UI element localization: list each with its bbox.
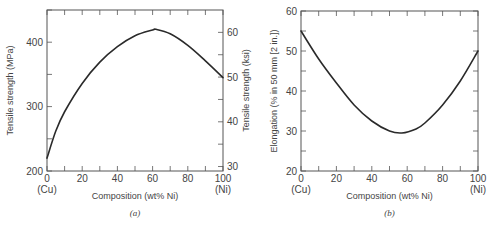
y-tick-label: 50 <box>286 46 298 57</box>
y-tick-label: 60 <box>286 6 298 17</box>
x-tick-label: 20 <box>331 173 343 184</box>
x-tick-label: 60 <box>147 173 159 184</box>
panel-caption: (b) <box>384 208 395 218</box>
chart-b-elongation: 0(Cu)20406080100(Ni)2030405060Elongation… <box>269 6 487 219</box>
plot-frame <box>301 11 478 171</box>
x-tick-label: 100 <box>215 173 232 184</box>
x-tick-sublabel: (Cu) <box>37 184 56 195</box>
x-axis-label: Composition (wt% Ni) <box>346 191 433 201</box>
y-right-tick-label: 30 <box>227 161 239 172</box>
x-tick-label: 80 <box>437 173 449 184</box>
panel-caption: (a) <box>130 208 141 218</box>
x-tick-label: 0 <box>44 173 50 184</box>
x-axis-label: Composition (wt% Ni) <box>92 191 179 201</box>
y-axis-right-label: Tensile strength (ksi) <box>241 49 251 132</box>
x-tick-label: 60 <box>402 173 414 184</box>
x-tick-label: 40 <box>366 173 378 184</box>
x-tick-label: 20 <box>77 173 89 184</box>
x-tick-sublabel: (Ni) <box>215 184 231 195</box>
y-axis-label: Tensile strength (MPa) <box>5 45 15 135</box>
y-right-tick-label: 50 <box>227 72 239 83</box>
y-tick-label: 200 <box>26 166 43 177</box>
y-tick-label: 30 <box>286 126 298 137</box>
x-tick-sublabel: (Ni) <box>470 184 486 195</box>
y-tick-label: 400 <box>26 37 43 48</box>
data-curve <box>301 31 478 133</box>
y-right-tick-label: 60 <box>227 27 239 38</box>
plot-frame <box>47 10 223 171</box>
y-tick-label: 300 <box>26 101 43 112</box>
y-axis-label: Elongation (% in 50 mm [2 in.]) <box>269 29 279 152</box>
x-tick-sublabel: (Cu) <box>291 184 310 195</box>
y-tick-label: 40 <box>286 86 298 97</box>
y-right-tick-label: 40 <box>227 116 239 127</box>
chart-a-tensile-strength: 0(Cu)20406080100(Ni)20030040030405060Ten… <box>5 10 251 218</box>
data-curve <box>47 29 223 158</box>
figure: 0(Cu)20406080100(Ni)20030040030405060Ten… <box>0 0 497 231</box>
x-tick-label: 80 <box>182 173 194 184</box>
x-tick-label: 40 <box>112 173 124 184</box>
x-tick-label: 100 <box>470 173 487 184</box>
x-tick-label: 0 <box>298 173 304 184</box>
y-tick-label: 20 <box>286 166 298 177</box>
